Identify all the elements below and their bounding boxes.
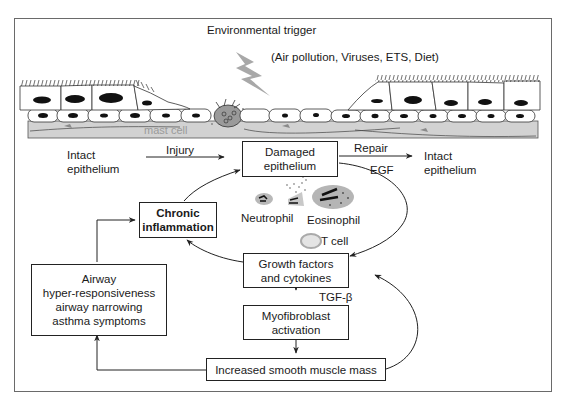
box-line: Damaged	[265, 145, 315, 159]
t-cell-icon	[301, 234, 321, 248]
box-line: hyper-responsiveness	[43, 286, 156, 300]
mast-cell-label: mast cell	[144, 124, 187, 136]
degranulating-cell-icon	[288, 192, 304, 206]
box-line: activation	[272, 323, 321, 337]
injury-label: Injury	[166, 143, 194, 157]
airway-to-inflammation-arrow	[97, 220, 135, 262]
box-line: Myofibroblast	[262, 309, 330, 323]
eosinophil-cell-icon	[312, 185, 354, 209]
box-line: Growth factors	[259, 257, 334, 271]
granule-dots	[286, 176, 307, 193]
growth-to-inflammation-arrow	[187, 240, 243, 262]
smooth-muscle-box: Increased smooth muscle mass	[206, 358, 386, 381]
basement-membrane	[28, 121, 538, 138]
myofibroblast-activation-box: Myofibroblast activation	[243, 305, 349, 340]
airway-symptoms-box: Airway hyper-responsiveness airway narro…	[31, 264, 167, 336]
intact-epithelium-left: Intact epithelium	[67, 148, 119, 176]
box-line: airway narrowing	[56, 300, 143, 314]
box-line: and cytokines	[261, 271, 331, 285]
growth-factors-box: Growth factors and cytokines	[243, 253, 349, 288]
box-line: Chronic	[156, 206, 199, 220]
label-line: Intact	[67, 148, 119, 162]
lightning-bolt-icon	[236, 52, 270, 96]
intact-epithelium-right: Intact epithelium	[424, 149, 476, 177]
t-cell-label: T cell	[321, 234, 348, 248]
label-line: Intact	[424, 149, 476, 163]
right-columnar-cells	[348, 81, 540, 110]
label-line: epithelium	[424, 163, 476, 177]
box-line: epithelium	[264, 159, 316, 173]
box-line: asthma symptoms	[52, 314, 145, 328]
trigger-examples: (Air pollution, Viruses, ETS, Diet)	[271, 50, 439, 64]
repair-label: Repair	[354, 141, 388, 155]
label-line: epithelium	[67, 162, 119, 176]
left-basal-cells	[28, 109, 211, 122]
egf-label: EGF	[370, 163, 394, 177]
tgf-beta-label: TGF-β	[319, 290, 352, 304]
muscle-feedback-arrow	[375, 275, 418, 369]
neutrophil-label: Neutrophil	[241, 211, 293, 225]
box-line: inflammation	[142, 220, 214, 234]
chronic-inflammation-box: Chronic inflammation	[139, 202, 217, 238]
eosinophil-label: Eosinophil	[307, 213, 360, 227]
box-line: Increased smooth muscle mass	[215, 363, 377, 377]
muscle-to-airway-arrow	[97, 335, 206, 370]
box-line: Airway	[82, 272, 117, 286]
environmental-trigger-title: Environmental trigger	[207, 23, 316, 37]
neutrophil-cell-icon	[255, 193, 273, 205]
damaged-epithelium-box: Damaged epithelium	[242, 141, 338, 177]
inflammation-to-damaged-arrow	[184, 170, 240, 201]
